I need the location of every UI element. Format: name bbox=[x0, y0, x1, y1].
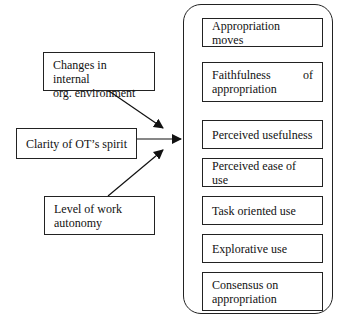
node-label-line2: autonomy bbox=[54, 216, 145, 230]
node-label-line2: org. environment bbox=[53, 86, 145, 100]
node-label-line1: Level of work bbox=[54, 202, 145, 216]
node-label: Perceived usefulness bbox=[212, 128, 312, 142]
node-label: Clarity of OT’s spirit bbox=[26, 137, 127, 151]
node-label: Appropriation moves bbox=[212, 19, 313, 47]
node-label: Explorative use bbox=[212, 242, 287, 256]
node-level-of-work-autonomy: Level of work autonomy bbox=[44, 196, 155, 235]
node-clarity-of-ot-spirit: Clarity of OT’s spirit bbox=[16, 128, 137, 159]
node-changes-in-internal-org-environment: Changes in internal org. environment bbox=[43, 52, 155, 91]
node-label-line2: appropriation bbox=[212, 292, 313, 306]
node-consensus-on-appropriation: Consensus on appropriation bbox=[202, 272, 323, 311]
node-label-line1: Consensus on bbox=[212, 278, 313, 292]
node-label-line2: appropriation bbox=[212, 82, 313, 96]
node-label: Task oriented use bbox=[212, 204, 296, 218]
node-label: Perceived ease of use bbox=[212, 159, 313, 187]
node-label-part-b: of bbox=[303, 68, 313, 82]
node-label-line1: Changes in internal bbox=[53, 58, 145, 86]
node-perceived-usefulness: Perceived usefulness bbox=[202, 120, 323, 149]
node-label-part-a: Faithfulness bbox=[212, 68, 271, 82]
node-appropriation-moves: Appropriation moves bbox=[202, 18, 323, 47]
node-task-oriented-use: Task oriented use bbox=[202, 196, 323, 225]
node-explorative-use: Explorative use bbox=[202, 234, 323, 263]
node-perceived-ease-of-use: Perceived ease of use bbox=[202, 158, 323, 187]
node-faithfulness-of-appropriation: Faithfulness of appropriation bbox=[202, 62, 323, 102]
